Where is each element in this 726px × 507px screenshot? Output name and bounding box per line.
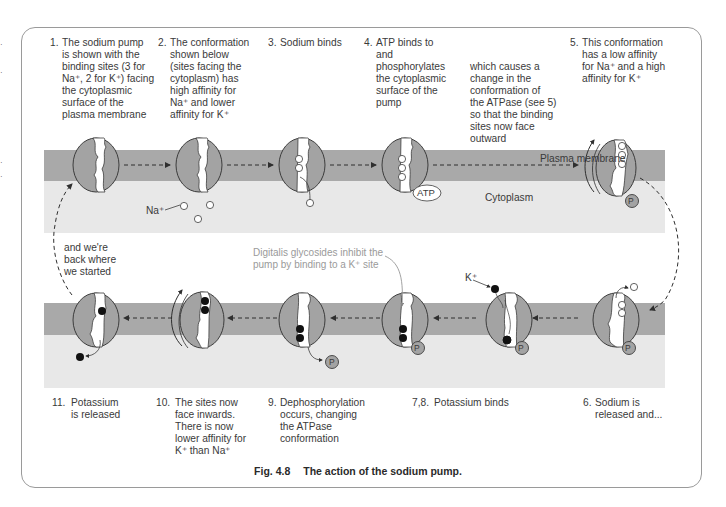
bottom-plasma-membrane: [44, 303, 665, 335]
pump-step-2: [176, 138, 222, 192]
step-5-label: 5. This conformation has a low affinity …: [570, 37, 680, 85]
caption-title: The action of the sodium pump.: [303, 465, 462, 477]
step-9-label: 9. Dephosphorylation occurs, changing th…: [268, 397, 378, 445]
step-11-label: 11. Potassium is released: [52, 397, 152, 421]
step-4b-text: which causes a change in the conformatio…: [470, 61, 580, 145]
digitalis-note: Digitalis glycosides inhibit the pump by…: [253, 247, 383, 271]
plasma-membrane-label: Plasma membrane: [540, 153, 626, 164]
sodium-ion-label: Na⁺: [146, 205, 164, 217]
step-7-8-text: Potassium binds: [434, 397, 532, 409]
phosphate-label: P: [628, 195, 634, 207]
step-10-label: 10. The sites now face inwards. There is…: [156, 397, 256, 457]
step-2-label: 2. The conformation shown below (sites f…: [158, 37, 258, 121]
bottom-cytoplasm: [44, 335, 665, 388]
caption-number: Fig. 4.8: [254, 465, 290, 477]
step-10-text: The sites now face inwards. There is now…: [175, 397, 256, 457]
step-1-label: 1. The sodium pump is shown with the bin…: [50, 37, 160, 121]
step-7-8-label: 7,8. Potassium binds: [412, 397, 532, 409]
cytoplasm-label: Cytoplasm: [485, 192, 533, 203]
step-4b-label: which causes a change in the conformatio…: [470, 61, 580, 145]
step-4-text: ATP binds to and phosphorylates the cyto…: [376, 37, 464, 109]
phosphate-label: P: [518, 342, 524, 354]
step-5-text: This conformation has a low affinity for…: [582, 37, 680, 85]
phosphate-label: P: [625, 342, 631, 354]
step-1-text: The sodium pump is shown with the bindin…: [62, 37, 160, 121]
top-cytoplasm: [44, 181, 665, 233]
phosphate-label: P: [414, 342, 420, 354]
pump-step-1: [73, 138, 119, 192]
step-6-text: Sodium is released and...: [595, 397, 683, 421]
step-11-text: Potassium is released: [71, 397, 152, 421]
step-3-text: Sodium binds: [280, 37, 368, 49]
step-3-label: 3. Sodium binds: [268, 37, 368, 49]
step-6-label: 6. Sodium is released and...: [583, 397, 683, 421]
loop-back-note: and we're back where we started: [64, 242, 116, 278]
step-9-text: Dephosphorylation occurs, changing the A…: [280, 397, 378, 445]
figure-caption: Fig. 4.8 The action of the sodium pump.: [0, 465, 726, 477]
step-2-text: The conformation shown below (sites faci…: [170, 37, 258, 121]
step-4-label: 4. ATP binds to and phosphorylates the c…: [364, 37, 464, 109]
potassium-ion-label: K⁺: [465, 272, 477, 284]
phosphate-label: P: [329, 356, 335, 368]
atp-label: ATP: [417, 187, 435, 199]
